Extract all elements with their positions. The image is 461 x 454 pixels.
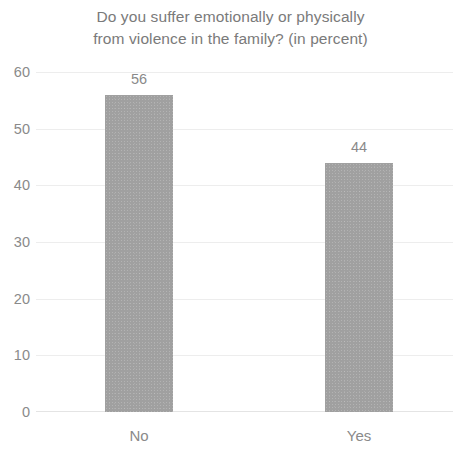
bar-no[interactable] bbox=[105, 95, 173, 412]
x-tick-label-no: No bbox=[79, 426, 199, 446]
y-tick-label-30: 30 bbox=[0, 235, 30, 249]
y-tick-label-10: 10 bbox=[0, 348, 30, 362]
bar-value-no: 56 bbox=[105, 72, 173, 86]
chart-title-line-2: from violence in the family? (in percent… bbox=[0, 28, 461, 50]
y-tick-label-20: 20 bbox=[0, 292, 30, 306]
bar-chart: Do you suffer emotionally or physically … bbox=[0, 0, 461, 454]
x-axis: No Yes bbox=[36, 420, 453, 454]
gridline-50 bbox=[36, 129, 453, 130]
plot-area: 56 44 bbox=[36, 72, 453, 412]
y-tick-label-0: 0 bbox=[0, 405, 30, 419]
y-tick-label-60: 60 bbox=[0, 65, 30, 79]
chart-title: Do you suffer emotionally or physically … bbox=[0, 6, 461, 50]
gridline-60 bbox=[36, 72, 453, 73]
chart-title-line-1: Do you suffer emotionally or physically bbox=[0, 6, 461, 28]
y-axis: 60 50 40 30 20 10 0 bbox=[0, 72, 30, 412]
y-tick-label-50: 50 bbox=[0, 122, 30, 136]
x-tick-label-yes: Yes bbox=[299, 426, 419, 446]
bar-yes[interactable] bbox=[325, 163, 393, 412]
bar-value-yes: 44 bbox=[325, 140, 393, 154]
y-tick-label-40: 40 bbox=[0, 178, 30, 192]
